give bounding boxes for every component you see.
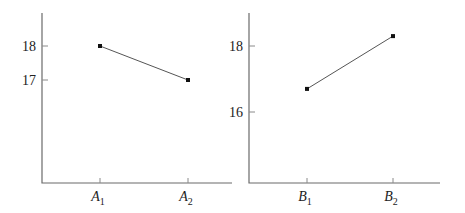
data-point (186, 78, 190, 82)
y-tick-label: 16 (229, 105, 243, 120)
data-point (391, 34, 395, 38)
y-tick-label: 18 (22, 39, 36, 54)
data-point (98, 44, 102, 48)
axis-lines (249, 13, 440, 183)
chart-panel-a: 1718A1A2 (22, 13, 232, 207)
chart-panel-b: 1618B1B2 (229, 13, 440, 207)
data-point (305, 87, 309, 91)
axis-lines (42, 13, 232, 183)
x-tick-label: A2 (178, 189, 193, 207)
y-tick-label: 18 (229, 39, 243, 54)
chart-canvas: 1718A1A2 1618B1B2 (0, 0, 465, 213)
series-line (100, 46, 188, 80)
y-tick-label: 17 (22, 73, 36, 88)
x-tick-label: B2 (384, 189, 398, 207)
x-tick-label: A1 (90, 189, 105, 207)
series-line (307, 36, 393, 89)
x-tick-label: B1 (298, 189, 312, 207)
